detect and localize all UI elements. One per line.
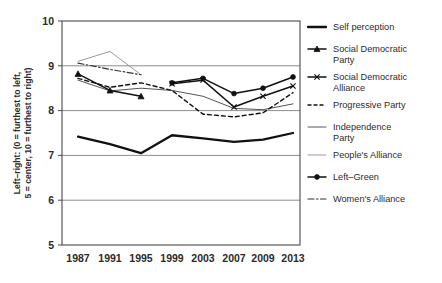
x-tick-label-2007: 2007 xyxy=(222,252,246,264)
y-tick-label-9: 9 xyxy=(48,60,54,72)
legend-label: Progressive Party xyxy=(333,100,406,110)
x-tick-label-2013: 2013 xyxy=(281,252,305,264)
y-tick-label-5: 5 xyxy=(48,239,54,251)
legend-label: Women's Alliance xyxy=(333,194,405,204)
data-point-marker-circle xyxy=(315,175,320,180)
legend-label: Party xyxy=(333,55,355,65)
y-tick-label-6: 6 xyxy=(48,194,54,206)
chart-figure: 5678910 19871991199519992003200720092013… xyxy=(0,0,442,283)
x-tick-label-1991: 1991 xyxy=(98,252,122,264)
legend-label: Alliance xyxy=(333,83,365,93)
x-tick-label-2009: 2009 xyxy=(251,252,275,264)
x-tick-label-1995: 1995 xyxy=(129,252,153,264)
legend-label: Social Democratic xyxy=(333,72,407,82)
legend-label: Party xyxy=(333,133,355,143)
x-tick-label-2003: 2003 xyxy=(191,252,215,264)
legend-label: Left–Green xyxy=(333,172,379,182)
y-tick-label-8: 8 xyxy=(48,104,54,116)
legend-label: Social Democratic xyxy=(333,44,407,54)
line-chart-svg: 5678910 19871991199519992003200720092013… xyxy=(0,0,442,283)
y-axis-title-line1: Left–right: (0 = furthest to left, xyxy=(12,72,22,194)
y-tick-label-10: 10 xyxy=(42,15,54,27)
x-tick-label-1999: 1999 xyxy=(160,252,184,264)
legend-label: Self perception xyxy=(333,22,394,32)
y-tick-label-7: 7 xyxy=(48,149,54,161)
legend-label: People's Alliance xyxy=(333,150,402,160)
data-point-marker-circle xyxy=(201,76,206,81)
data-point-marker-circle xyxy=(170,80,175,85)
y-axis-title-line2: 5 = center, 10 = furthest to right) xyxy=(23,67,33,198)
y-axis-title: Left–right: (0 = furthest to left, 5 = c… xyxy=(12,67,33,198)
data-point-marker-circle xyxy=(232,91,237,96)
data-point-marker-circle xyxy=(291,75,296,80)
data-point-marker-circle xyxy=(261,86,266,91)
x-tick-label-1987: 1987 xyxy=(66,252,90,264)
legend-label: Independence xyxy=(333,122,391,132)
